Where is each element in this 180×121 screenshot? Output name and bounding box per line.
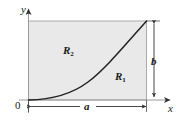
width-dimension-label: a bbox=[84, 101, 90, 112]
origin-label: 0 bbox=[15, 100, 21, 111]
math-figure: y x 0 a b R2 R1 bbox=[0, 0, 180, 121]
region-label-r2: R2 bbox=[63, 45, 74, 56]
y-axis-label: y bbox=[21, 4, 26, 15]
region-label-r1: R1 bbox=[115, 71, 126, 82]
x-axis-label: x bbox=[168, 103, 173, 114]
shaded-rectangle bbox=[29, 21, 147, 100]
height-dimension-label: b bbox=[151, 56, 157, 67]
region-r1-subscript: 1 bbox=[122, 76, 126, 84]
region-r2-subscript: 2 bbox=[70, 50, 74, 58]
